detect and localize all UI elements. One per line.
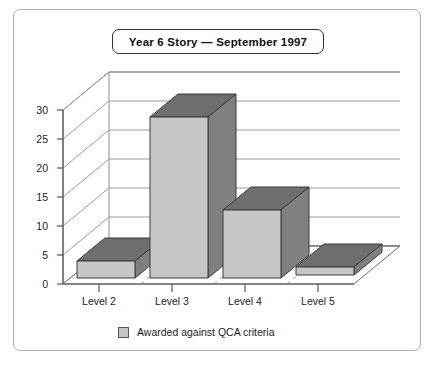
y-tick-label: 15: [22, 191, 48, 203]
y-tick-label: 20: [22, 162, 48, 174]
y-tick-label: 30: [22, 104, 48, 116]
bar-level-4: [223, 187, 309, 278]
y-tick-label: 10: [22, 220, 48, 232]
legend-label: Awarded against QCA criteria: [137, 326, 275, 338]
chart-plot-area: [0, 0, 436, 365]
y-tick-label: 5: [22, 249, 48, 261]
x-axis: [63, 284, 354, 292]
x-tick-label-level-4: Level 4: [210, 295, 280, 307]
chart-legend: Awarded against QCA criteria: [118, 326, 275, 338]
legend-swatch: [118, 327, 129, 338]
y-tick-label: 25: [22, 133, 48, 145]
x-tick-label-level-5: Level 5: [283, 295, 353, 307]
x-tick-label-level-3: Level 3: [137, 295, 207, 307]
x-tick-label-level-2: Level 2: [64, 295, 134, 307]
y-axis: [57, 110, 63, 284]
y-tick-label: 0: [22, 278, 48, 290]
